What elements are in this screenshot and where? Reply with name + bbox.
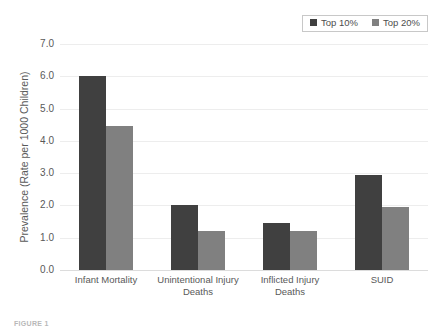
y-axis-title-text: Prevalence (Rate per 1000 Children) [17,71,29,242]
legend-swatch-icon-top-10 [310,19,317,26]
legend-swatch-icon-top-20 [372,19,379,26]
legend-entry-top-10[interactable]: Top 10% [310,18,358,28]
legend-entry-top-20[interactable]: Top 20% [372,18,420,28]
y-axis-tick-label: 2.0 [14,200,54,210]
figure-container: Top 10% Top 20% Prevalence (Rate per 100… [0,0,436,330]
bar-group [336,44,428,270]
bar[interactable] [382,207,409,270]
bar[interactable] [79,76,106,270]
bar[interactable] [106,126,133,270]
bar-groups [60,44,428,270]
chart-legend: Top 10% Top 20% [302,15,428,32]
y-axis-tick-label: 6.0 [14,71,54,81]
plot-area [60,44,428,270]
bar[interactable] [355,175,382,270]
bars [152,44,244,270]
bars [60,44,152,270]
bar[interactable] [290,231,317,270]
y-axis-tick-label: 5.0 [14,104,54,114]
legend-label-top-10: Top 10% [321,18,358,28]
bar-group [152,44,244,270]
bar[interactable] [198,231,225,270]
x-axis-category-label: Infant Mortality [60,274,152,298]
bar-group [244,44,336,270]
y-axis-tick-label: 0.0 [14,265,54,275]
y-axis-tick-label: 7.0 [14,39,54,49]
bar[interactable] [263,223,290,270]
bars [244,44,336,270]
legend-label-top-20: Top 20% [383,18,420,28]
y-axis-tick-label: 3.0 [14,168,54,178]
figure-caption: FIGURE 1 [14,320,49,327]
x-axis-category-label: Inflicted Injury Deaths [244,274,336,298]
y-axis-tick-label: 4.0 [14,136,54,146]
gridline [60,270,428,271]
x-axis-category-label: SUID [336,274,428,298]
bar[interactable] [171,205,198,270]
bar-group [60,44,152,270]
x-axis-category-labels: Infant MortalityUnintentional Injury Dea… [60,274,428,298]
y-axis-tick-label: 1.0 [14,233,54,243]
bars [336,44,428,270]
x-axis-category-label: Unintentional Injury Deaths [152,274,244,298]
